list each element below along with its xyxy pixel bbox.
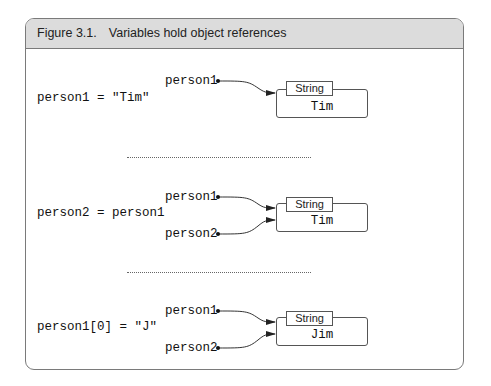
- reference-dot: [216, 346, 220, 350]
- reference-dot: [216, 195, 220, 199]
- reference-dot: [216, 309, 220, 313]
- reference-dot: [216, 232, 220, 236]
- reference-arrows: [0, 0, 491, 386]
- reference-dot: [216, 79, 220, 83]
